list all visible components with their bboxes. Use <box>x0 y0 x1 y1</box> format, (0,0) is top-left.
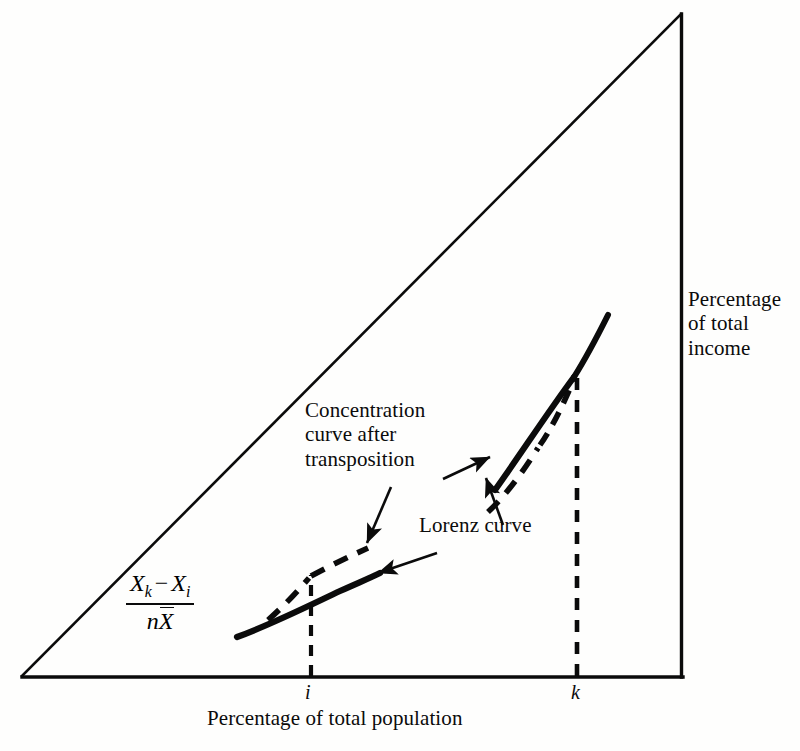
denominator-n: n <box>147 608 159 634</box>
gap-formula: Xk−Xi nX <box>126 570 194 635</box>
fraction: Xk−Xi nX <box>126 570 194 635</box>
lorenz-curve-tail-above-k <box>574 315 608 377</box>
fraction-numerator: Xk−Xi <box>126 570 194 602</box>
arrow-to-concentration-curve-lower <box>367 487 391 543</box>
x-tick-label-k: k <box>571 681 580 704</box>
arrow-to-concentration-curve-upper <box>443 457 490 479</box>
axes-triangle <box>22 14 683 677</box>
numerator-first-subscript: k <box>145 583 152 600</box>
equality-diagonal-line <box>22 14 681 676</box>
y-axis-label: Percentage of total income <box>688 287 781 360</box>
fraction-denominator: nX <box>126 607 194 635</box>
x-tick-label-i: i <box>305 681 311 704</box>
arrow-to-lorenz-curve-lower <box>378 553 437 573</box>
lorenz-curve-label: Lorenz curve <box>419 513 532 537</box>
lorenz-curve-upper-segment <box>495 377 574 490</box>
concentration-curve-lower-segment <box>311 548 368 576</box>
figure-canvas <box>0 0 800 751</box>
fraction-bar <box>126 603 194 605</box>
formula-operator: − <box>152 570 172 596</box>
numerator-second-var: X <box>171 570 186 596</box>
x-axis-label: Percentage of total population <box>207 706 463 730</box>
denominator-x-bar: X <box>159 608 174 635</box>
concentration-curve-label: Concentration curve after transposition <box>305 398 425 471</box>
numerator-first-var: X <box>130 570 145 596</box>
lorenz-curve <box>237 315 608 637</box>
numerator-second-subscript: i <box>186 583 190 600</box>
lorenz-curve-figure: Percentage of total income Percentage of… <box>0 0 800 751</box>
